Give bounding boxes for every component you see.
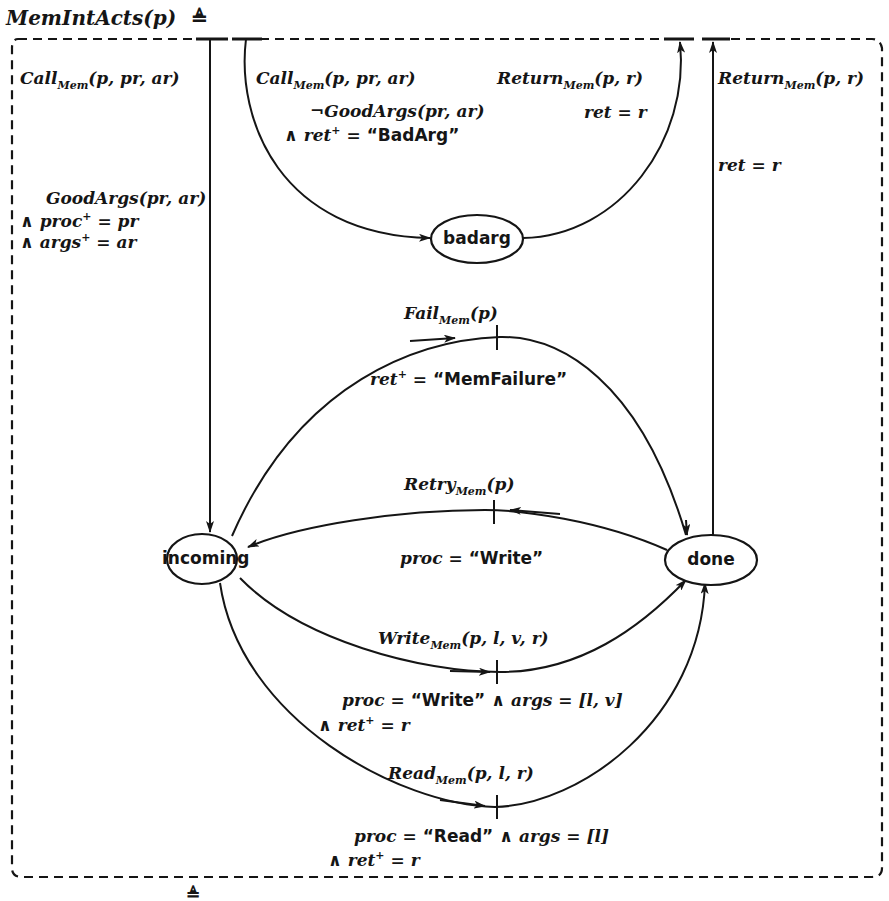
footer-partial-define: ≜ [186, 886, 200, 901]
guard-fail: ret+ = “MemFailure” [370, 369, 567, 388]
define-symbol: ≜ [191, 6, 208, 30]
guard-proc-assign: ∧ proc+ = pr [20, 211, 138, 230]
label-return-bad: ReturnMem(p, r) [497, 70, 643, 91]
guard-return-bad: ret = r [584, 104, 647, 121]
guard-retry: proc = “Write” [400, 550, 543, 567]
guard-write-line1: proc = “Write” ∧ args = [l, v] [342, 692, 623, 709]
label-write: WriteMem(p, l, v, r) [378, 630, 549, 651]
diagram-title: MemIntActs(p) ≜ [6, 8, 208, 28]
edge-write [240, 578, 686, 672]
edge-retry [248, 510, 667, 550]
node-label-done: done [665, 551, 757, 568]
guard-return-done: ret = r [718, 157, 781, 174]
label-read: ReadMem(p, l, r) [388, 765, 534, 786]
edge-fail [232, 337, 686, 536]
guard-args-assign: ∧ args+ = ar [20, 232, 136, 251]
node-label-incoming: incoming [162, 550, 242, 567]
label-call-bad: CallMem(p, pr, ar) [256, 70, 416, 91]
guard-ret-badarg: ∧ ret+ = “BadArg” [284, 125, 459, 144]
transition-ticks [494, 325, 497, 819]
label-return-done: ReturnMem(p, r) [718, 70, 864, 91]
title-name: MemIntActs(p) [6, 6, 176, 30]
guard-goodargs: GoodArgs(pr, ar) [46, 190, 206, 207]
label-call-good: CallMem(p, pr, ar) [20, 70, 180, 91]
guard-write-line2: ∧ ret+ = r [318, 715, 410, 734]
label-fail: FailMem(p) [404, 305, 498, 326]
guard-not-goodargs: ¬GoodArgs(pr, ar) [310, 103, 484, 120]
guard-read-line2: ∧ ret+ = r [328, 850, 420, 869]
node-label-badarg: badarg [431, 230, 523, 247]
guard-read-line1: proc = “Read” ∧ args = [l] [354, 828, 609, 845]
label-retry: RetryMem(p) [404, 476, 514, 497]
